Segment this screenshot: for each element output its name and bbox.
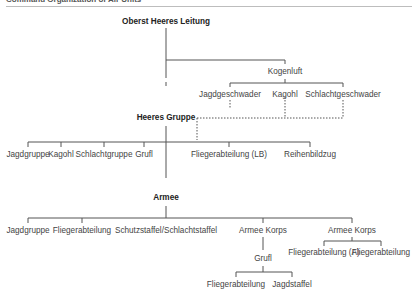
node-ak1-jagdstaffel: Jagdstaffel [272, 280, 311, 289]
node-kagohl-top: Kagohl [272, 90, 298, 99]
node-armee-korps-2: Armee Korps [328, 226, 376, 235]
node-hg-reihenbildzug: Reihenbildzug [284, 150, 336, 159]
node-a-schutzstaffel: Schutzstaffel/Schlachtstaffel [115, 226, 217, 235]
node-ak1-grufl: Grufl [254, 254, 272, 263]
node-kogenluft: Kogenluft [268, 67, 303, 76]
node-jagdgeschwader: Jagdgeschwader [199, 90, 261, 99]
node-a-jagdgruppe: Jagdgruppe [6, 226, 49, 235]
node-armee-korps-1: Armee Korps [239, 226, 287, 235]
node-ohl: Oberst Heeres Leitung [122, 17, 210, 26]
node-hg-grufl: Grufl [135, 150, 153, 159]
node-a-fliegerabteilung: Fliegerabteilung [53, 226, 111, 235]
node-schlachtgeschwader: Schlachtgeschwader [305, 90, 381, 99]
node-hg-kagohl: Kagohl [48, 150, 74, 159]
node-ak2-fliegerabteilung-a: Fliegerabteilung (A) [288, 248, 359, 257]
node-armee: Armee [153, 193, 179, 202]
node-hg-schlachtgruppe: Schlachtgruppe [76, 150, 133, 159]
node-ak1-fliegerabteilung: Fliegerabteilung [207, 280, 265, 289]
node-heeres-gruppe: Heeres Gruppe [137, 113, 196, 122]
node-ak2-fliegerabteilung: Fliegerabteilung [352, 248, 410, 257]
node-hg-jagdgruppe: Jagdgruppe [6, 150, 49, 159]
node-hg-fliegerabteilung-lb: Fliegerabteilung (LB) [191, 150, 267, 159]
